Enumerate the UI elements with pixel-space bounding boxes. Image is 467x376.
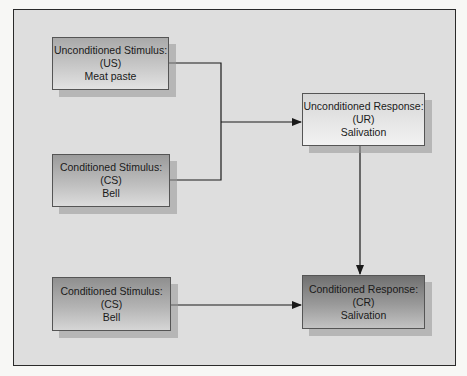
us-connector: [169, 63, 221, 180]
conditioned-stimulus-box-alone: Conditioned Stimulus: (CS) Bell: [52, 277, 171, 331]
node-label: Conditioned Stimulus:: [60, 161, 162, 174]
node-label: Conditioned Response:: [309, 283, 418, 296]
node-label: Conditioned Stimulus:: [60, 285, 162, 298]
node-example: Meat paste: [85, 70, 137, 83]
node-example: Bell: [103, 311, 121, 324]
node-example: Salivation: [341, 126, 387, 139]
node-abbrev: (CR): [352, 296, 374, 309]
node-abbrev: (CS): [101, 298, 123, 311]
node-example: Bell: [102, 187, 120, 200]
conditioned-response-box: Conditioned Response: (CR) Salivation: [302, 275, 425, 329]
node-label: Unconditioned Stimulus:: [54, 44, 167, 57]
node-abbrev: (UR): [352, 113, 374, 126]
node-label: Unconditioned Response:: [303, 100, 423, 113]
unconditioned-stimulus-box: Unconditioned Stimulus: (US) Meat paste: [52, 37, 169, 90]
node-abbrev: (CS): [100, 174, 122, 187]
node-abbrev: (US): [100, 57, 122, 70]
node-example: Salivation: [341, 309, 387, 322]
unconditioned-response-box: Unconditioned Response: (UR) Salivation: [302, 93, 425, 146]
conditioned-stimulus-box-pairing: Conditioned Stimulus: (CS) Bell: [52, 154, 170, 207]
